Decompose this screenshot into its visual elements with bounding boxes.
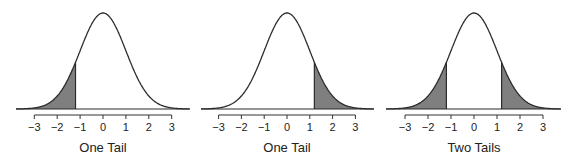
normal-curve [16,13,190,109]
shaded-tail-region [314,62,373,109]
x-tick-label: 1 [494,121,500,133]
panel-label: One Tail [79,140,127,155]
panel-3: −3−2−10123Two Tails [386,13,561,155]
x-tick-label: 2 [517,121,523,133]
normal-curve [201,13,374,109]
x-tick-label: 3 [169,121,175,133]
x-tick-label: 0 [100,121,106,133]
x-tick-label: −2 [235,121,248,133]
x-tick-label: 2 [146,121,152,133]
x-tick-label: 3 [352,121,358,133]
x-tick-label: 0 [284,121,290,133]
normal-tails-figure: −3−2−10123One Tail−3−2−10123One Tail−3−2… [0,0,570,163]
panel-2: −3−2−10123One Tail [201,13,374,155]
x-tick-label: −1 [445,121,458,133]
x-tick-label: 3 [540,121,546,133]
shaded-tail-region [16,62,76,109]
panel-1: −3−2−10123One Tail [16,13,190,155]
x-tick-label: −1 [258,121,271,133]
panel-label: One Tail [263,140,311,155]
x-tick-label: −1 [74,121,87,133]
x-tick-label: 2 [330,121,336,133]
panel-label: Two Tails [447,140,501,155]
x-tick-label: −3 [399,121,412,133]
x-tick-label: −3 [28,121,41,133]
x-tick-label: −2 [422,121,435,133]
x-tick-label: 1 [307,121,313,133]
x-tick-label: 0 [471,121,477,133]
x-tick-label: 1 [123,121,129,133]
x-tick-label: −2 [51,121,64,133]
shaded-tail-region [387,62,447,109]
x-tick-label: −3 [212,121,225,133]
shaded-tail-region [502,62,561,109]
normal-curve [386,13,561,109]
